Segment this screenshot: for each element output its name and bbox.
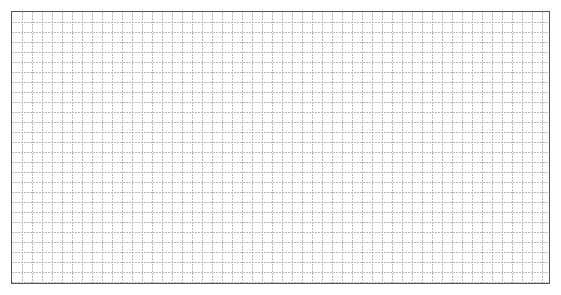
graph-paper-grid — [11, 11, 550, 284]
grid-lines — [12, 12, 550, 284]
